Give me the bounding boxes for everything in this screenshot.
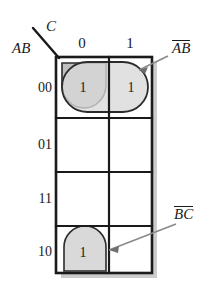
column-header-1: 1 <box>117 36 143 51</box>
row-header-00: 00 <box>18 81 52 95</box>
karnaugh-map-diagram: C AB 0 1 00 01 11 10 1 1 1 AB BC <box>0 0 221 297</box>
column-header-0: 0 <box>69 36 95 51</box>
row-header-01: 01 <box>18 138 52 152</box>
row-header-11: 11 <box>18 192 52 206</box>
cell-00-0: 1 <box>73 81 93 95</box>
group-label-ab: AB <box>172 40 190 56</box>
group-label-bc-letter-c: C <box>183 206 193 222</box>
group-label-bc-letter-b: B <box>174 206 183 222</box>
cell-10-0: 1 <box>73 246 93 260</box>
group-label-bc: BC <box>174 206 193 222</box>
column-variable-label: C <box>46 19 56 34</box>
group-label-ab-letter-a: A <box>172 40 181 56</box>
cell-00-1: 1 <box>121 81 141 95</box>
row-variable-label: AB <box>12 41 30 56</box>
group-label-ab-letter-b: B <box>181 40 190 56</box>
row-header-10: 10 <box>18 245 52 259</box>
